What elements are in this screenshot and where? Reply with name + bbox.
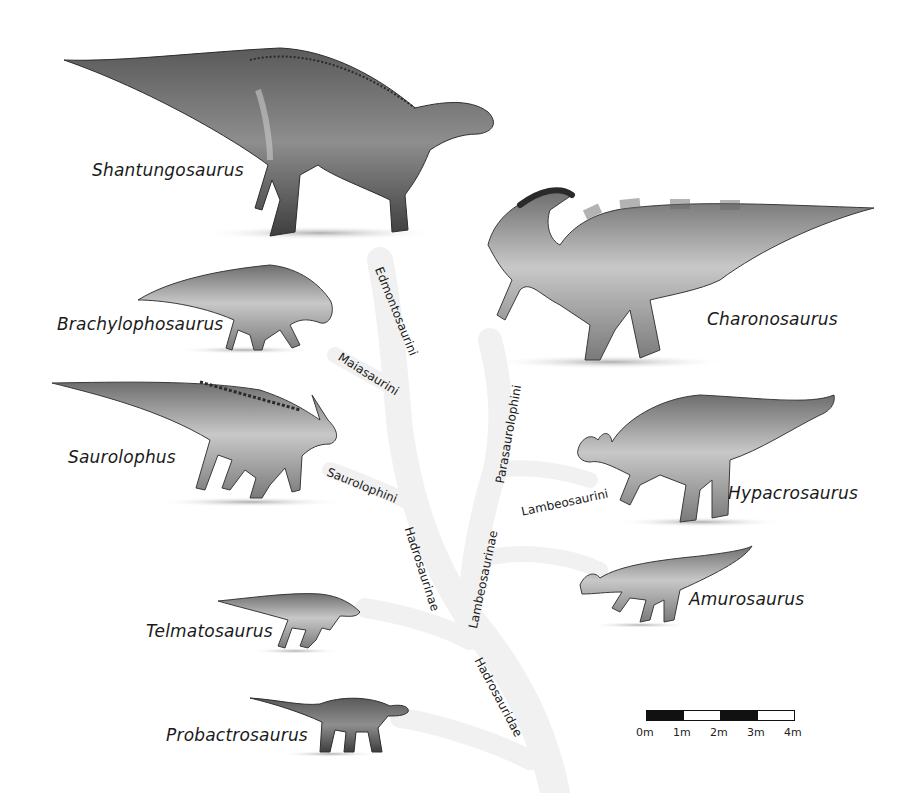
shantungosaurus-illustration: [64, 48, 493, 240]
scale-segment-3-4m: [757, 710, 795, 721]
taxon-label-saurolophus: Saurolophus: [68, 447, 176, 467]
taxon-label-charonosaurus: Charonosaurus: [707, 309, 838, 329]
hadrosaur-phylogeny-figure: Shantungosaurus Brachylophosaurus Saurol…: [0, 0, 914, 793]
scale-tick-2m: 2m: [710, 726, 728, 739]
brachylophosaurus-illustration: [138, 265, 332, 354]
scale-tick-0m: 0m: [636, 726, 654, 739]
taxon-label-probactrosaurus: Probactrosaurus: [166, 725, 308, 745]
charonosaurus-illustration: [488, 190, 874, 369]
taxon-label-brachylophosaurus: Brachylophosaurus: [57, 314, 223, 334]
taxon-label-amurosaurus: Amurosaurus: [689, 589, 804, 609]
scale-segment-1-2m: [683, 710, 721, 721]
taxon-label-telmatosaurus: Telmatosaurus: [146, 621, 273, 641]
taxon-label-hypacrosaurus: Hypacrosaurus: [728, 483, 858, 503]
hypacrosaurus-illustration: [578, 395, 835, 527]
scale-segment-2-3m: [720, 710, 758, 721]
scale-tick-1m: 1m: [673, 726, 691, 739]
scale-bar: [646, 710, 796, 721]
scale-tick-4m: 4m: [784, 726, 802, 739]
saurolophus-illustration: [52, 382, 345, 507]
scale-tick-3m: 3m: [747, 726, 765, 739]
dinosaur-illustrations: [0, 0, 914, 793]
scale-segment-0-1m: [646, 710, 684, 721]
taxon-label-shantungosaurus: Shantungosaurus: [92, 160, 244, 180]
amurosaurus-illustration: [580, 546, 752, 628]
